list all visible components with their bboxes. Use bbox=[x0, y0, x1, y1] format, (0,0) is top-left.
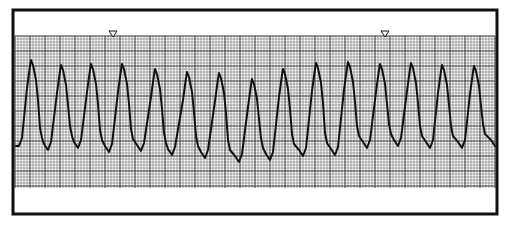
grid-paper bbox=[15, 36, 495, 188]
rhythm-strip bbox=[0, 0, 507, 228]
